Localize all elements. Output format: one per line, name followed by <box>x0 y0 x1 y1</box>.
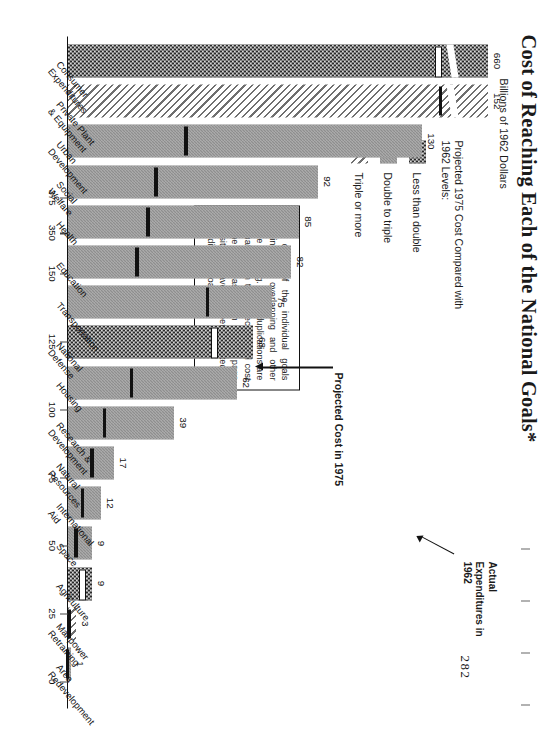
chart-page: Cost of Reaching Each of the National Go… <box>0 0 558 745</box>
category-labels: ConsumerExpendituresPrivate Plant& Equip… <box>0 0 558 745</box>
plot-area: 6601521309285827568623917129931 02550751… <box>0 0 558 745</box>
category-label: InternationalAid <box>46 501 96 555</box>
category-label: Education <box>54 260 89 299</box>
category-label: Agriculture <box>54 581 91 623</box>
category-label: Health <box>54 219 80 247</box>
category-label: AreaRedevelopment <box>46 662 105 727</box>
category-label: Housing <box>54 380 85 414</box>
category-label: NationalDefense <box>46 340 85 381</box>
category-label: ManpowerRetraining <box>46 621 91 669</box>
